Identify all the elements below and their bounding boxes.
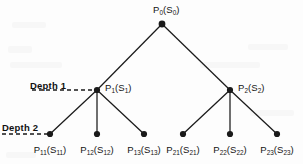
tree-node-dots [47,21,280,137]
tree-node-dot-n21[interactable] [180,131,186,137]
tree-node-dot-n23[interactable] [274,131,280,137]
tree-edge-n1-to-n13 [97,90,144,134]
tree-node-dot-n11[interactable] [47,131,53,137]
tree-edge-n2-to-n21 [183,90,230,134]
node-label-n23: P23(S23) [260,144,294,155]
tree-edges [50,24,277,134]
tree-node-dot-n1[interactable] [94,87,100,93]
tree-edge-root-to-n1 [97,24,162,90]
depth-1-label: Depth 1 [30,80,66,91]
tree-diagram-figure: P0(S0)P1(S1)P2(S2)P11(S11)P12(S12)P13(S1… [0,0,303,164]
node-label-n22: P22(S22) [213,144,247,155]
node-label-n12: P12(S12) [80,144,114,155]
node-label-n13: P13(S13) [127,144,161,155]
tree-node-dot-n12[interactable] [94,131,100,137]
tree-edge-n1-to-n11 [50,90,97,134]
tree-node-dot-n22[interactable] [227,131,233,137]
tree-node-dot-n13[interactable] [141,131,147,137]
tree-edge-root-to-n2 [162,24,230,90]
node-label-n1: P1(S1) [105,82,132,93]
node-label-root: P0(S0) [153,4,180,15]
tree-node-dot-n2[interactable] [227,87,233,93]
node-label-n2: P2(S2) [238,82,265,93]
node-label-n11: P11(S11) [34,144,67,155]
depth-2-label: Depth 2 [2,122,38,133]
tree-edge-n2-to-n23 [230,90,277,134]
node-label-n21: P21(S21) [166,144,200,155]
tree-node-dot-root[interactable] [159,21,166,28]
